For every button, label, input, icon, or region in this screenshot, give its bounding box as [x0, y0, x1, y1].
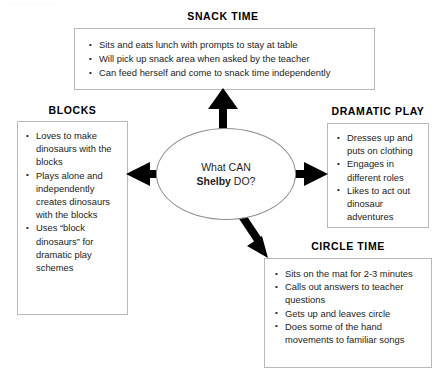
diagram-canvas: ........................ SNACK TIME Sits… — [0, 0, 446, 384]
question-line-2-suffix: DO? — [231, 175, 256, 187]
student-name: Shelby — [197, 175, 231, 187]
arrow-up-to-snack-icon — [208, 88, 238, 130]
central-question-text: What CAN Shelby DO? — [197, 160, 256, 188]
central-question-oval: What CAN Shelby DO? — [156, 128, 296, 220]
question-line-1: What CAN — [201, 161, 251, 173]
